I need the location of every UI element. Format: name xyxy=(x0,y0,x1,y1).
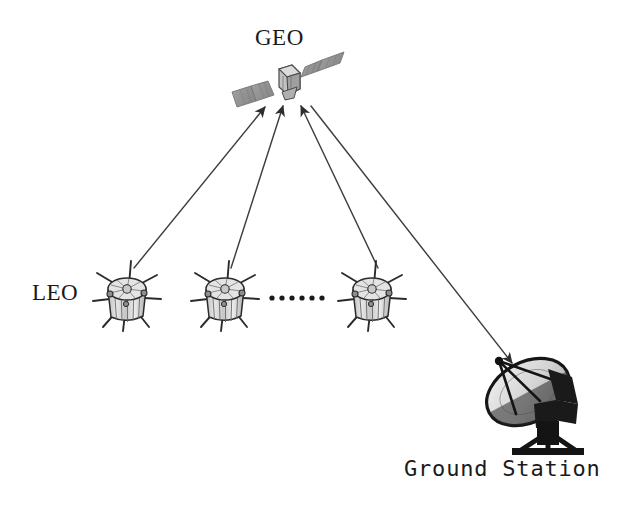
leo-label: LEO xyxy=(32,281,78,304)
satellite-network-diagram: GEO LEO Ground Station xyxy=(0,0,618,505)
geo-label: GEO xyxy=(255,26,304,49)
ground-station-feed-horn xyxy=(495,357,503,365)
diagram-background xyxy=(0,0,618,505)
ground-station-label: Ground Station xyxy=(404,458,601,480)
ground-station-base xyxy=(512,448,584,455)
diagram-canvas xyxy=(0,0,618,505)
